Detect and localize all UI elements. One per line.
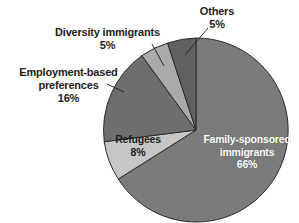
label-family-sponsored-name-line2: immigrants <box>199 146 295 159</box>
label-employment-based-name-line2: preferences <box>6 79 131 92</box>
label-others-name: Others <box>200 5 234 17</box>
label-diversity-immigrants-name: Diversity immigrants <box>55 26 160 38</box>
label-refugees-name: Refugees <box>115 133 161 145</box>
pie-chart: Diversity immigrants 5% Others 5% Employ… <box>0 0 299 223</box>
label-refugees: Refugees 8% <box>105 133 171 158</box>
label-employment-based-percent: 16% <box>6 92 131 105</box>
label-family-sponsored-percent: 66% <box>199 158 295 171</box>
label-employment-based-preferences: Employment-based preferences 16% <box>6 66 131 105</box>
label-family-sponsored-name-line1: Family-sponsored <box>203 133 290 145</box>
label-others: Others 5% <box>188 5 246 31</box>
label-diversity-immigrants: Diversity immigrants 5% <box>45 26 170 52</box>
label-family-sponsored-immigrants: Family-sponsored immigrants 66% <box>199 133 295 171</box>
label-employment-based-name-line1: Employment-based <box>19 66 117 78</box>
label-diversity-immigrants-percent: 5% <box>45 39 170 52</box>
label-others-percent: 5% <box>188 18 246 31</box>
label-refugees-percent: 8% <box>105 146 171 159</box>
